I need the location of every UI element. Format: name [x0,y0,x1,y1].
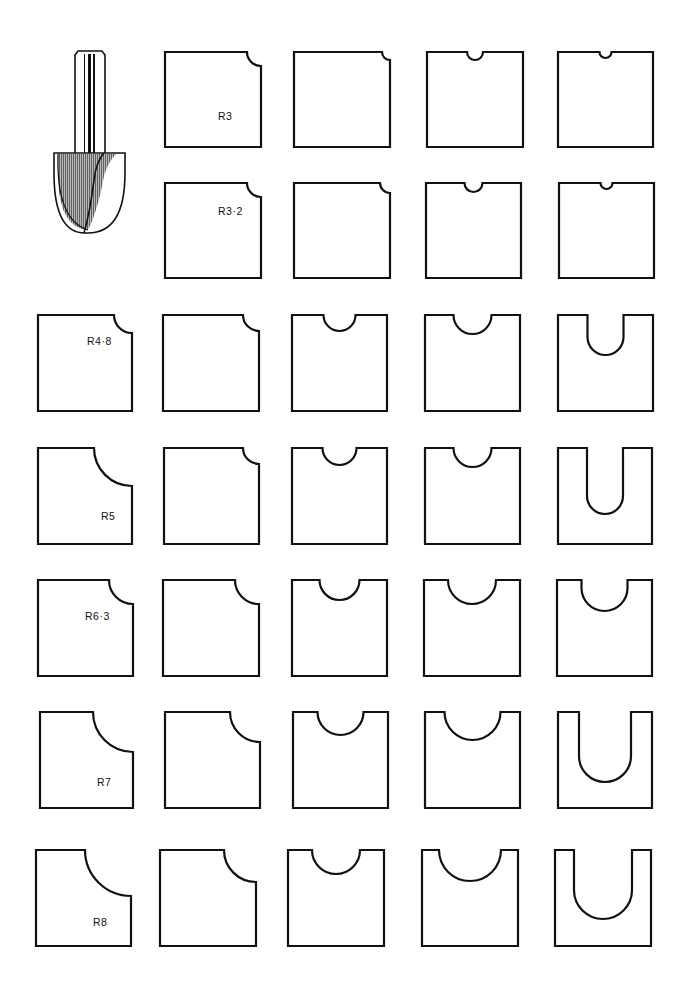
profile-outline [163,580,259,676]
corner-profile-diagram [294,52,390,147]
corner-profile-diagram [38,448,132,544]
panel-row4-col1-corner [164,448,259,544]
profile-outline [424,580,520,676]
profile-outline [38,448,132,544]
panel-row4-col0-corner: R5 [38,448,132,544]
corner-profile-diagram [163,315,259,411]
corner-profile-diagram [165,183,261,278]
profile-outline [165,52,261,147]
radius-label: R4·8 [86,335,113,347]
top-notch-profile-diagram [424,580,520,676]
profile-outline [36,850,131,946]
top-notch-profile-diagram [293,712,388,808]
panel-row3-col0-corner: R4·8 [38,315,132,411]
profile-outline [294,183,390,278]
panel-row3-col2-top-notch [292,315,387,411]
panel-row6-col0-corner: R7 [40,712,133,808]
profile-outline [558,315,653,411]
radius-label: R5 [100,510,116,522]
top-notch-profile-diagram [558,52,653,147]
u-slot-profile-diagram [558,712,652,808]
top-notch-profile-diagram [425,448,520,544]
panel-row1-col1-corner: R3 [165,52,261,147]
top-notch-profile-diagram [426,183,521,278]
profile-outline [558,448,652,544]
corner-profile-diagram [164,448,259,544]
corner-profile-diagram [40,712,133,808]
router-bit-icon [40,50,130,235]
profile-outline [558,52,653,147]
panel-row3-col1-corner [163,315,259,411]
profile-outline [293,712,388,808]
panel-row4-col3-top-notch [425,448,520,544]
profile-outline [294,52,390,147]
radius-label: R3·2 [217,205,244,217]
top-notch-profile-diagram [422,850,518,946]
panel-row2-col1-corner: R3·2 [165,183,261,278]
radius-label: R6·3 [84,610,111,622]
panel-row7-col1-corner [160,850,256,946]
panel-row7-col3-top-notch [422,850,518,946]
panel-row3-col4-u-slot [558,315,653,411]
profile-outline [559,183,654,278]
corner-profile-diagram [38,315,132,411]
top-notch-profile-diagram [292,580,387,676]
corner-profile-diagram [38,580,133,676]
panel-row5-col0-corner: R6·3 [38,580,133,676]
panel-row1-col4-top-notch [558,52,653,147]
panel-row5-col4-u-slot [557,580,652,676]
panel-row7-col0-corner: R8 [36,850,131,946]
profile-outline [292,448,387,544]
profile-outline [292,315,387,411]
profile-outline [292,580,387,676]
top-notch-profile-diagram [288,850,384,946]
profile-outline [425,448,520,544]
profile-outline [160,850,256,946]
profile-outline [164,448,259,544]
u-slot-profile-diagram [558,315,653,411]
profile-outline [557,580,652,676]
profile-outline [422,850,518,946]
radius-label: R7 [96,776,112,788]
panel-row6-col4-u-slot [558,712,652,808]
panel-row4-col4-u-slot [558,448,652,544]
panel-row5-col2-top-notch [292,580,387,676]
corner-profile-diagram [160,850,256,946]
profile-outline [426,183,521,278]
profile-outline [555,850,651,946]
panel-row2-col2-corner [294,183,390,278]
panel-row6-col1-corner [165,712,260,808]
panel-row3-col3-top-notch [425,315,520,411]
panel-row6-col2-top-notch [293,712,388,808]
u-slot-profile-diagram [557,580,652,676]
panel-row1-col2-corner [294,52,390,147]
profile-outline [163,315,259,411]
u-slot-profile-diagram [555,850,651,946]
corner-profile-diagram [294,183,390,278]
top-notch-profile-diagram [292,448,387,544]
profile-outline [425,315,520,411]
panel-row5-col3-top-notch [424,580,520,676]
panel-row7-col4-u-slot [555,850,651,946]
profile-outline [288,850,384,946]
profile-outline [38,315,132,411]
top-notch-profile-diagram [425,712,520,808]
panel-row2-col4-top-notch [559,183,654,278]
panel-row1-col3-top-notch [427,52,523,147]
radius-label: R3 [217,110,233,122]
profile-outline [165,183,261,278]
profile-outline [38,580,133,676]
u-slot-profile-diagram [558,448,652,544]
profile-outline [40,712,133,808]
corner-profile-diagram [163,580,259,676]
figure-canvas: R3R3·2R4·8R5R6·3R7R8 [0,0,689,995]
profile-outline [165,712,260,808]
router-bit-illustration [40,50,130,235]
profile-outline [427,52,523,147]
corner-profile-diagram [165,52,261,147]
panel-row2-col3-top-notch [426,183,521,278]
profile-outline [425,712,520,808]
top-notch-profile-diagram [425,315,520,411]
panel-row5-col1-corner [163,580,259,676]
corner-profile-diagram [165,712,260,808]
